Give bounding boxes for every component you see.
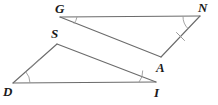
vertex-label-A: A xyxy=(156,61,165,74)
segment-GN xyxy=(60,16,200,17)
tick-mark-segment-DS xyxy=(31,60,39,68)
geometry-canvas xyxy=(0,0,218,105)
segment-ID xyxy=(13,82,156,83)
vertex-label-I: I xyxy=(154,86,159,99)
angle-arc-D xyxy=(26,72,30,83)
vertex-label-G: G xyxy=(55,2,64,15)
vertex-label-D: D xyxy=(3,85,12,98)
angle-arc-N xyxy=(183,16,188,29)
vertex-label-S: S xyxy=(51,27,58,40)
vertex-label-N: N xyxy=(198,1,207,14)
geometry-figure: G N A S D I xyxy=(0,0,218,105)
triangle-GNA xyxy=(60,16,200,57)
